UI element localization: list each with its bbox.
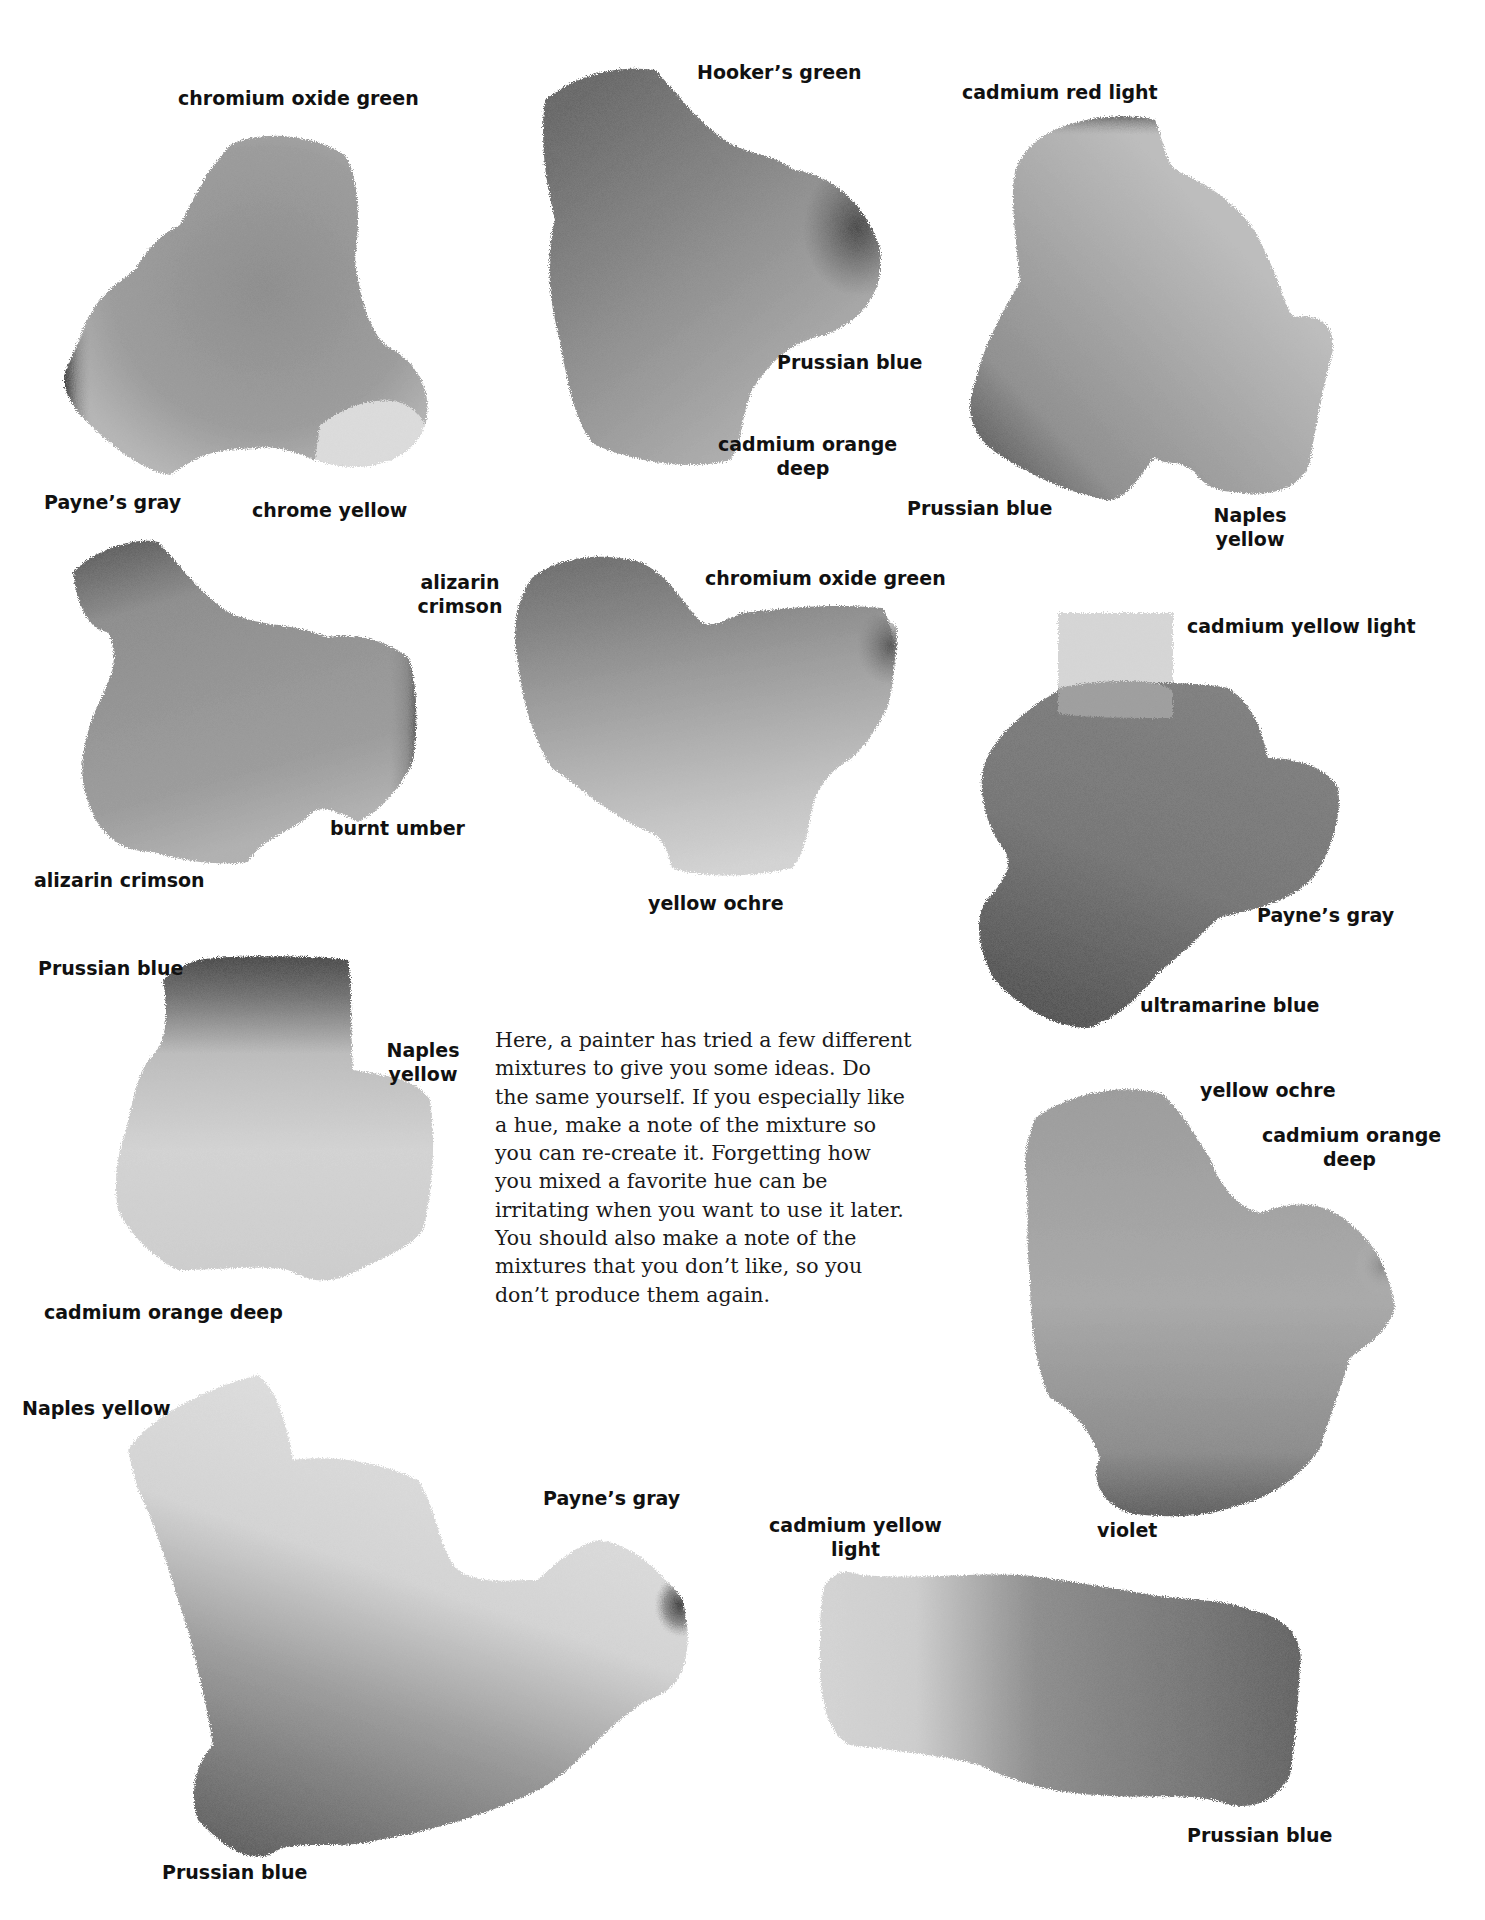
label-line: deep <box>1262 1147 1437 1171</box>
swatch-label: alizarin crimson <box>34 868 205 892</box>
swatch-label: cadmium orange deep <box>718 432 888 480</box>
swatch-label: cadmium orange deep <box>44 1300 283 1324</box>
text-line: a hue, make a note of the mixture so <box>495 1111 935 1139</box>
label-line: Naples <box>1200 503 1300 527</box>
swatch-label: chrome yellow <box>252 498 407 522</box>
swatch-label: ultramarine blue <box>1140 993 1319 1017</box>
swatch-label: Prussian blue <box>1187 1823 1332 1847</box>
swatch-label: alizarin crimson <box>410 570 510 618</box>
swatch-label: cadmium orange deep <box>1262 1123 1437 1171</box>
swatch-label: Naples yellow <box>22 1396 171 1420</box>
body-paragraph: Here, a painter has tried a few differen… <box>495 1026 935 1309</box>
label-line: alizarin <box>410 570 510 594</box>
text-line: irritating when you want to use it later… <box>495 1196 935 1224</box>
label-line: light <box>768 1537 943 1561</box>
swatch-mix-3 <box>965 112 1350 502</box>
text-line: Here, a painter has tried a few differen… <box>495 1026 935 1054</box>
text-line: You should also make a note of the <box>495 1224 935 1252</box>
text-line: the same yourself. If you especially lik… <box>495 1083 935 1111</box>
swatch-label: cadmium red light <box>962 80 1158 104</box>
swatch-label: Prussian blue <box>777 350 922 374</box>
swatch-label: Prussian blue <box>907 496 1052 520</box>
text-line: mixtures that you don’t like, so you <box>495 1252 935 1280</box>
swatch-label: chromium oxide green <box>178 86 419 110</box>
text-line: you mixed a favorite hue can be <box>495 1167 935 1195</box>
swatch-label: Payne’s gray <box>543 1486 680 1510</box>
text-line: mixtures to give you some ideas. Do <box>495 1054 935 1082</box>
label-line: cadmium orange <box>718 432 888 456</box>
swatch-label: yellow ochre <box>1200 1078 1336 1102</box>
swatch-label: yellow ochre <box>648 891 784 915</box>
swatch-mix-1 <box>60 125 440 485</box>
swatch-label: violet <box>1097 1518 1157 1542</box>
swatch-label: Naples yellow <box>378 1038 468 1086</box>
label-line: cadmium orange <box>1262 1123 1437 1147</box>
swatch-label: cadmium yellow light <box>1187 614 1416 638</box>
swatch-label: Prussian blue <box>162 1860 307 1884</box>
label-line: crimson <box>410 594 510 618</box>
label-line: yellow <box>378 1062 468 1086</box>
swatch-label: Payne’s gray <box>1257 903 1394 927</box>
label-line: deep <box>718 456 888 480</box>
swatch-mix-9 <box>118 1370 698 1870</box>
swatch-label: burnt umber <box>330 816 465 840</box>
text-line: don’t produce them again. <box>495 1281 935 1309</box>
swatch-label: Naples yellow <box>1200 503 1300 551</box>
label-line: yellow <box>1200 527 1300 551</box>
swatch-label: Prussian blue <box>38 956 183 980</box>
swatch-label: Hooker’s green <box>697 60 862 84</box>
label-line: cadmium yellow <box>768 1513 943 1537</box>
swatch-label: chromium oxide green <box>705 566 946 590</box>
swatch-label: Payne’s gray <box>44 490 181 514</box>
swatch-mix-7 <box>108 950 438 1290</box>
text-line: you can re-create it. Forgetting how <box>495 1139 935 1167</box>
label-line: Naples <box>378 1038 468 1062</box>
swatch-mix-5 <box>502 548 902 883</box>
swatch-mix-6 <box>968 608 1348 1033</box>
swatch-label: cadmium yellow light <box>768 1513 943 1561</box>
swatch-mix-10 <box>810 1565 1310 1825</box>
swatch-mix-2 <box>525 60 895 480</box>
